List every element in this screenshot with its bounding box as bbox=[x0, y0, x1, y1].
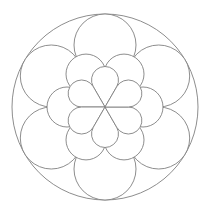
mandala-diagram bbox=[0, 0, 210, 210]
